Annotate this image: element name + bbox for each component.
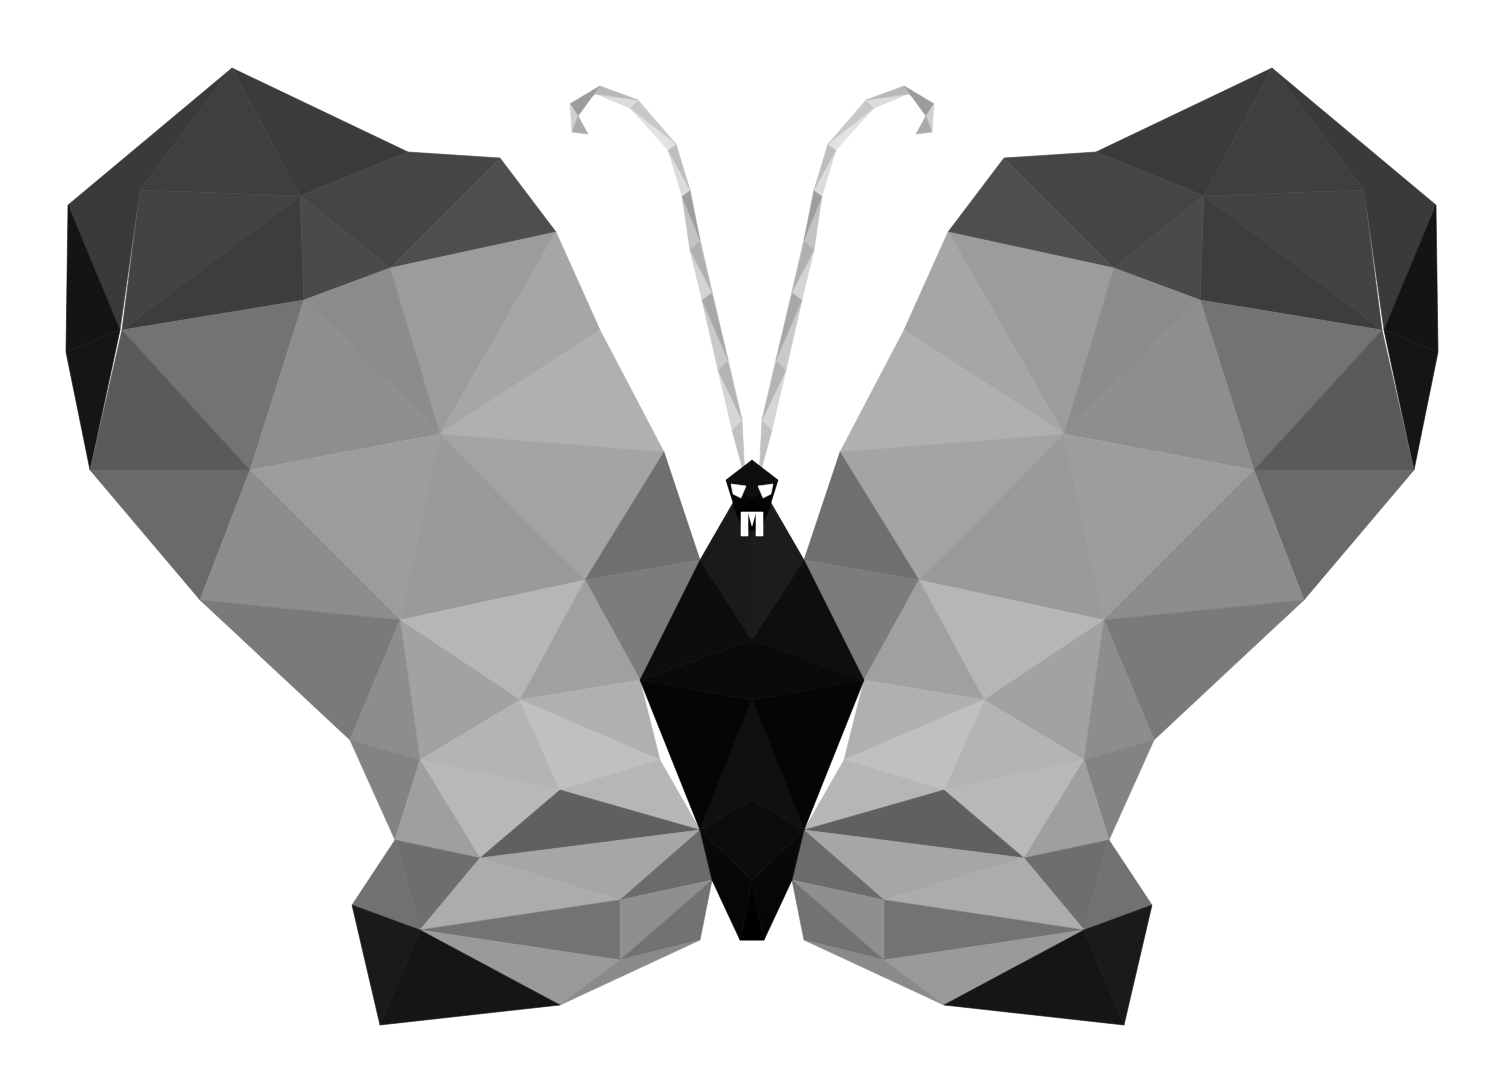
- white-m-mark-left: [741, 512, 748, 536]
- white-m-mark-right: [756, 512, 763, 536]
- low-poly-butterfly-illustration: [0, 0, 1497, 1081]
- artwork-canvas: Low Poly Butterfly: [0, 0, 1497, 1081]
